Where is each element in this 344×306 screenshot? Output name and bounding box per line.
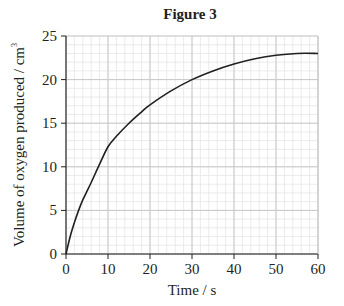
y-tick-label: 5: [50, 202, 58, 218]
plot-area: 01020304050600510152025: [0, 0, 344, 306]
y-tick-label: 20: [42, 72, 57, 88]
y-tick-label: 10: [42, 159, 57, 175]
x-tick-label: 0: [62, 261, 70, 277]
y-tick-label: 15: [42, 115, 57, 131]
y-tick-label: 0: [50, 246, 58, 262]
major-grid: [66, 36, 318, 254]
x-tick-label: 10: [101, 261, 116, 277]
x-tick-label: 50: [269, 261, 284, 277]
y-tick-label: 25: [42, 28, 57, 44]
x-tick-label: 20: [143, 261, 158, 277]
x-tick-label: 30: [185, 261, 200, 277]
chart: Figure 3 Volume of oxygen produced / cm3…: [0, 0, 344, 306]
x-tick-label: 60: [311, 261, 326, 277]
x-tick-label: 40: [227, 261, 242, 277]
